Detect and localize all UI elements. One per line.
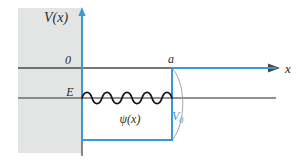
v-axis-label: V(x) [44, 10, 68, 26]
finite-square-well-figure: V(x) x 0 E a ψ(x) V0 [0, 0, 297, 165]
well-depth-brace [173, 69, 183, 139]
well-depth-label: V0 [172, 109, 183, 125]
wavefunction-label: ψ(x) [120, 112, 141, 126]
energy-label: E [65, 85, 74, 99]
x-axis-label: x [284, 61, 291, 76]
potential-well-diagram: V(x) x 0 E a ψ(x) V0 [0, 0, 297, 165]
well-width-label: a [168, 52, 174, 66]
well-depth-subscript: 0 [179, 116, 183, 125]
shaded-region-left [18, 8, 82, 153]
origin-label: 0 [65, 53, 71, 67]
